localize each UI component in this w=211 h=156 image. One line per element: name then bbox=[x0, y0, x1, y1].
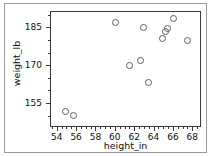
x-axis-minor-tick bbox=[91, 127, 92, 129]
y-axis-minor-tick bbox=[48, 116, 50, 117]
y-axis-minor-tick bbox=[48, 40, 50, 41]
x-axis-label: height_in bbox=[50, 140, 201, 151]
x-axis-minor-tick bbox=[197, 127, 198, 129]
x-axis-minor-tick bbox=[144, 127, 145, 129]
x-axis-minor-tick bbox=[52, 127, 53, 129]
x-axis-minor-tick bbox=[139, 127, 140, 129]
y-axis-tick bbox=[46, 27, 50, 28]
data-point bbox=[126, 62, 133, 69]
y-axis-minor-tick bbox=[48, 15, 50, 16]
x-axis-minor-tick bbox=[71, 127, 72, 129]
scatter-plot-screenshot: 5456586062646668155170185 height_in weig… bbox=[0, 0, 211, 156]
x-axis-minor-tick bbox=[81, 127, 82, 129]
data-point bbox=[184, 37, 191, 44]
data-point bbox=[137, 57, 144, 64]
data-point bbox=[164, 25, 171, 32]
x-axis-minor-tick bbox=[183, 127, 184, 129]
y-axis-tick bbox=[46, 103, 50, 104]
x-axis-minor-tick bbox=[129, 127, 130, 129]
x-axis-minor-tick bbox=[100, 127, 101, 129]
x-axis-tick bbox=[57, 127, 58, 131]
y-axis-minor-tick bbox=[48, 78, 50, 79]
y-axis-tick-label: 185 bbox=[16, 22, 42, 32]
x-axis-minor-tick bbox=[158, 127, 159, 129]
data-point bbox=[159, 35, 166, 42]
y-axis-minor-tick bbox=[48, 53, 50, 54]
data-point bbox=[140, 24, 147, 31]
x-axis-tick bbox=[192, 127, 193, 131]
x-axis-tick bbox=[115, 127, 116, 131]
x-axis-tick bbox=[154, 127, 155, 131]
x-axis-minor-tick bbox=[105, 127, 106, 129]
x-axis-minor-tick bbox=[120, 127, 121, 129]
x-axis-minor-tick bbox=[125, 127, 126, 129]
x-axis-minor-tick bbox=[163, 127, 164, 129]
y-axis-minor-tick bbox=[48, 90, 50, 91]
x-axis-minor-tick bbox=[66, 127, 67, 129]
y-axis-label: weight_lb bbox=[11, 34, 22, 94]
x-axis-tick bbox=[173, 127, 174, 131]
data-point bbox=[62, 108, 69, 115]
x-axis-minor-tick bbox=[187, 127, 188, 129]
x-axis-minor-tick bbox=[62, 127, 63, 129]
data-point bbox=[145, 79, 152, 86]
y-axis-tick-label: 155 bbox=[16, 98, 42, 108]
plot-data-area bbox=[50, 11, 201, 127]
x-axis-minor-tick bbox=[86, 127, 87, 129]
x-axis-minor-tick bbox=[168, 127, 169, 129]
data-point bbox=[170, 15, 177, 22]
x-axis-tick bbox=[134, 127, 135, 131]
data-point bbox=[112, 19, 119, 26]
x-axis-minor-tick bbox=[178, 127, 179, 129]
data-point bbox=[70, 112, 77, 119]
x-axis-minor-tick bbox=[149, 127, 150, 129]
x-axis-tick bbox=[76, 127, 77, 131]
x-axis-tick bbox=[95, 127, 96, 131]
x-axis-minor-tick bbox=[110, 127, 111, 129]
y-axis-tick bbox=[46, 65, 50, 66]
